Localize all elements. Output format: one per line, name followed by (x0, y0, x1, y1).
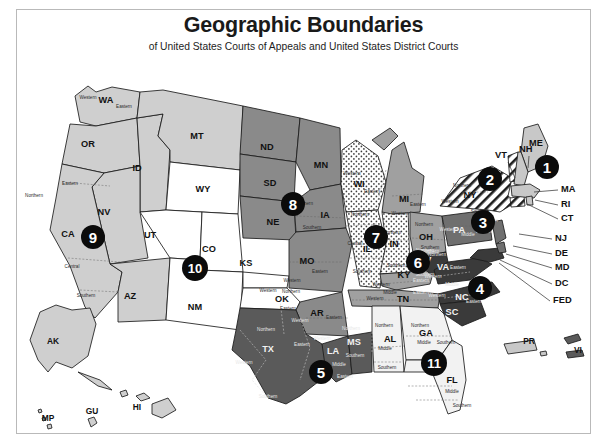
district-label: Southern (259, 394, 278, 399)
district-label: Southern (346, 353, 365, 358)
district-label: Western (439, 227, 456, 232)
district-label: Western (291, 318, 308, 323)
district-label: Eastern (364, 189, 380, 194)
us-courts-map: WAORIDMTNDSDMNWYNVCAUTCONEIAKSMOAZNMOKAR… (16, 60, 591, 434)
circuit-badge-number: 11 (427, 356, 441, 371)
district-label: Northern (342, 326, 360, 331)
circuit-badge-7[interactable]: 7 (364, 225, 388, 249)
state-label-TX: TX (262, 344, 275, 354)
district-label: Northern (25, 193, 43, 198)
district-label: Northern (375, 323, 393, 328)
state-label-AR: AR (310, 308, 324, 318)
circuit-badge-2[interactable]: 2 (478, 167, 502, 191)
state-label-OH: OH (419, 232, 433, 242)
circuit-badge-6[interactable]: 6 (406, 250, 430, 274)
state-label-SD: SD (264, 178, 277, 188)
state-label-OR: OR (81, 139, 95, 149)
district-label: Eastern (450, 265, 466, 270)
district-label: Middle (332, 362, 346, 367)
district-label: Northern (428, 252, 446, 257)
district-label: Eastern (62, 181, 78, 186)
circuit-badge-number: 2 (486, 171, 494, 188)
state-label-KS: KS (240, 258, 253, 268)
callout-label-NJ: NJ (555, 233, 567, 243)
callout-label-MD: MD (555, 262, 570, 272)
callout-label-RI: RI (561, 199, 570, 209)
state-label-CA: CA (61, 229, 75, 239)
district-label: Western (366, 296, 383, 301)
circuit-badge-4[interactable]: 4 (468, 276, 492, 300)
district-label: Middle (461, 232, 475, 237)
circuit-badge-number: 5 (317, 364, 325, 381)
district-label: Northern (282, 289, 300, 294)
territory-label-PR: PR (523, 336, 535, 346)
state-label-MI: MI (399, 194, 409, 204)
district-label: Eastern (294, 342, 310, 347)
map-svg: WAORIDMTNDSDMNWYNVCAUTCONEIAKSMOAZNMOKAR… (16, 60, 591, 434)
district-label: Western (441, 199, 458, 204)
district-label: Southern (453, 403, 472, 408)
circuit-badge-number: 9 (89, 229, 97, 246)
circuit-badge-10[interactable]: 10 (182, 255, 208, 281)
state-label-NM: NM (188, 302, 203, 312)
state-label-NE: NE (267, 217, 280, 227)
state-NY[interactable] (440, 166, 516, 212)
circuit-badge-5[interactable]: 5 (309, 360, 333, 384)
callout-label-DC: DC (555, 278, 569, 288)
state-label-GA: GA (419, 328, 433, 338)
district-label: Western (259, 288, 276, 293)
district-label: Middle (445, 282, 459, 287)
state-MN[interactable] (296, 118, 341, 190)
territory-label-GU: GU (86, 406, 99, 416)
state-MA[interactable] (511, 184, 540, 198)
territory-label-HI: HI (133, 402, 141, 412)
state-CT[interactable] (510, 196, 525, 207)
state-label-TN: TN (397, 294, 410, 304)
district-label: Middle (383, 290, 397, 295)
district-label: Eastern (280, 306, 296, 311)
district-label: Southern (437, 340, 456, 345)
district-label: Western (424, 274, 441, 279)
state-label-KY: KY (398, 270, 411, 280)
state-label-WY: WY (196, 184, 211, 194)
state-label-VA: VA (437, 262, 449, 272)
callout-label-VT: VT (495, 150, 507, 160)
state-HI[interactable] (120, 390, 176, 418)
circuit-badge-11[interactable]: 11 (421, 350, 447, 376)
page-title: Geographic Boundaries (0, 13, 607, 38)
circuit-badge-number: 10 (188, 261, 202, 276)
state-OR[interactable] (62, 118, 140, 173)
state-label-LA: LA (327, 346, 340, 356)
callout-label-CT: CT (561, 213, 574, 223)
territory-GU[interactable] (88, 417, 97, 427)
state-KS[interactable] (243, 272, 289, 288)
district-label: Eastern (337, 374, 353, 379)
state-label-IA: IA (320, 210, 330, 220)
state-ND[interactable] (240, 106, 300, 162)
circuit-badge-3[interactable]: 3 (471, 210, 495, 234)
circuit-badge-number: 4 (476, 280, 485, 297)
callout-label-NH: NH (519, 144, 533, 154)
state-AZ[interactable] (110, 258, 170, 322)
state-label-WA: WA (99, 95, 114, 105)
state-AK[interactable] (30, 305, 112, 390)
callout-label-DE: DE (555, 248, 568, 258)
page-subtitle: of United States Courts of Appeals and U… (0, 41, 607, 52)
callout-label-FED: FED (553, 295, 572, 305)
circuit-badge-1[interactable]: 1 (535, 155, 559, 179)
callout-leader-line (513, 246, 552, 254)
district-label: Middle (378, 346, 392, 351)
callout-leader-line (519, 234, 552, 239)
circuit-badge-8[interactable]: 8 (281, 192, 305, 216)
circuit-badge-9[interactable]: 9 (81, 225, 105, 249)
state-RI[interactable] (526, 196, 533, 205)
state-label-CO: CO (202, 244, 216, 254)
callout-leader-line (535, 200, 558, 205)
callout-leader-line (500, 260, 552, 284)
district-label: Northern (351, 212, 369, 217)
state-label-AZ: AZ (124, 291, 137, 301)
district-label: Northern (453, 183, 471, 188)
map-page: Geographic Boundaries of United States C… (0, 0, 607, 448)
circuit-badge-number: 8 (289, 196, 297, 213)
state-label-SC: SC (446, 307, 459, 317)
